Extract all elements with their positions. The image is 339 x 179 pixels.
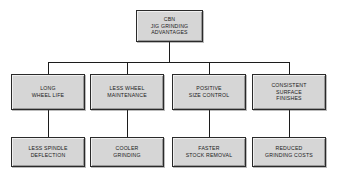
node-label: LESS WHEEL MAINTENANCE (107, 85, 147, 98)
node-label: REDUCED GRINDING COSTS (265, 145, 313, 158)
node-positive-size-control[interactable]: POSITIVE SIZE CONTROL (172, 74, 246, 110)
node-reduced-grinding-costs[interactable]: REDUCED GRINDING COSTS (252, 137, 326, 167)
node-label: POSITIVE SIZE CONTROL (189, 85, 230, 98)
node-consistent-surface-finishes[interactable]: CONSISTENT SURFACE FINISHES (252, 74, 326, 110)
node-long-wheel-life[interactable]: LONG WHEEL LIFE (11, 74, 85, 110)
connector-link-col2 (127, 110, 128, 137)
node-label: LESS SPINDLE DEFLECTION (28, 145, 67, 158)
connector-root-stem (169, 42, 170, 63)
node-label: CONSISTENT SURFACE FINISHES (271, 82, 306, 102)
node-less-wheel-maintenance[interactable]: LESS WHEEL MAINTENANCE (90, 74, 164, 110)
connector-link-col1 (48, 110, 49, 137)
node-label: FASTER STOCK REMOVAL (186, 145, 233, 158)
connector-link-col4 (289, 110, 290, 137)
node-cooler-grinding[interactable]: COOLER GRINDING (90, 137, 164, 167)
connector-horizontal-bus (48, 62, 290, 63)
node-label: CBN JIG GRINDING ADVANTAGES (151, 16, 189, 36)
node-label: LONG WHEEL LIFE (32, 85, 64, 98)
connector-link-col3 (209, 110, 210, 137)
node-faster-stock-removal[interactable]: FASTER STOCK REMOVAL (172, 137, 246, 167)
node-label: COOLER GRINDING (113, 145, 140, 158)
node-cbn-jig-grinding-advantages[interactable]: CBN JIG GRINDING ADVANTAGES (136, 10, 203, 42)
node-less-spindle-deflection[interactable]: LESS SPINDLE DEFLECTION (11, 137, 85, 167)
flowchart-canvas: CBN JIG GRINDING ADVANTAGES LONG WHEEL L… (0, 0, 339, 179)
